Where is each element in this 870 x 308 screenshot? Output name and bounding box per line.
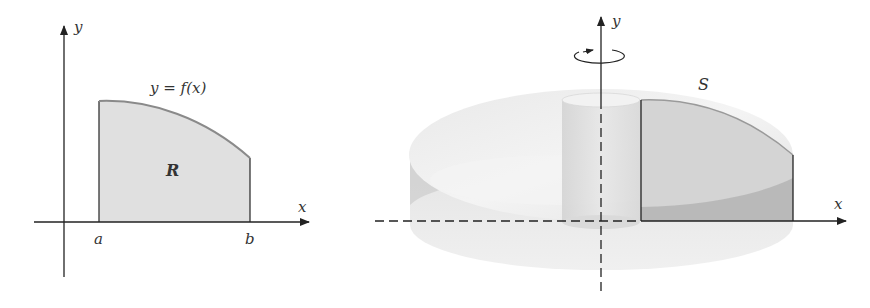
rotation-arrow-icon [574, 50, 624, 63]
solid-label: S [698, 75, 709, 94]
curve-label: y = f(x) [149, 79, 206, 97]
y-axis-label: y [73, 18, 83, 36]
left-figure: y x y = f(x) R a b [34, 18, 309, 277]
figure-canvas: y x y = f(x) R a b [0, 0, 870, 308]
y-axis-label-right: y [611, 12, 621, 30]
x-axis-label: x [298, 198, 307, 216]
tick-a-label: a [94, 230, 103, 248]
tick-b-label: b [245, 230, 255, 248]
right-figure: y x S [375, 12, 846, 296]
region-label: R [165, 161, 179, 180]
x-axis-label-right: x [834, 195, 843, 213]
